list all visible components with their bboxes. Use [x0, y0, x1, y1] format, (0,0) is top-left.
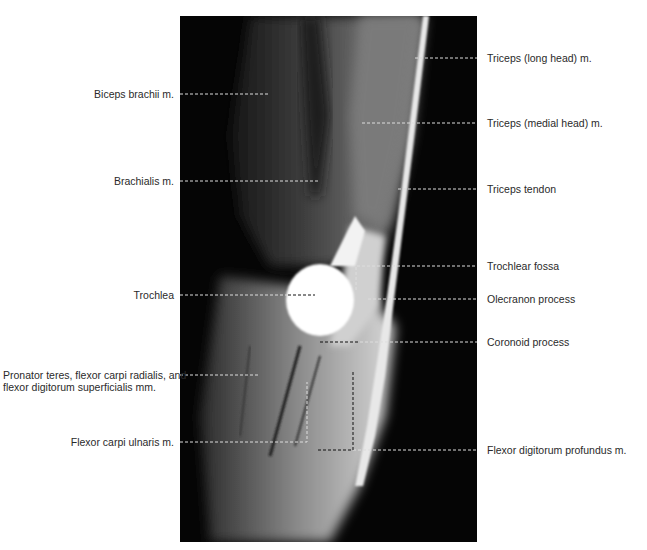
label-coronoid-process: Coronoid process	[487, 336, 569, 348]
label-pronator-teres-flexor-group: Pronator teres, flexor carpi radialis, a…	[3, 369, 198, 393]
label-brachialis: Brachialis m.	[114, 175, 174, 187]
label-triceps-long-head: Triceps (long head) m.	[487, 52, 592, 64]
label-triceps-tendon: Triceps tendon	[487, 183, 556, 195]
label-biceps-brachii: Biceps brachii m.	[94, 88, 174, 100]
label-trochlea: Trochlea	[134, 289, 174, 301]
mri-image	[180, 16, 477, 542]
label-olecranon-process: Olecranon process	[487, 293, 575, 305]
mri-anatomy-illustration	[180, 16, 477, 542]
label-triceps-medial-head: Triceps (medial head) m.	[487, 117, 603, 129]
label-flexor-digitorum-profundus: Flexor digitorum profundus m.	[487, 444, 626, 456]
label-trochlear-fossa: Trochlear fossa	[487, 260, 559, 272]
label-flexor-carpi-ulnaris: Flexor carpi ulnaris m.	[71, 436, 174, 448]
